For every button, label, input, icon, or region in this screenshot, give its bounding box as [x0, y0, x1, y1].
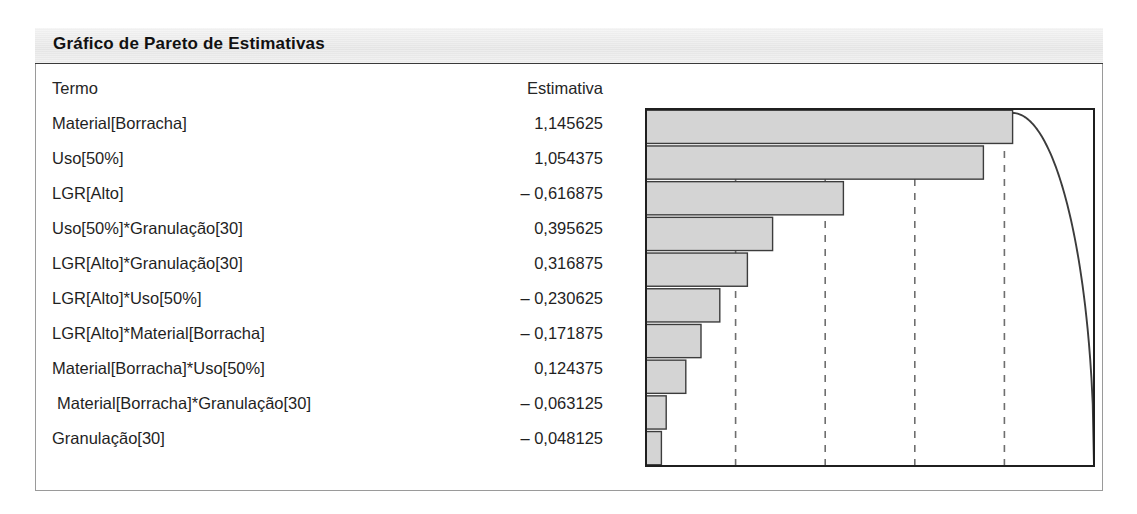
page-title: Gráfico de Pareto de Estimativas — [53, 34, 325, 54]
table-row[interactable]: Uso[50%]*Granulação[30] 0,395625 — [36, 212, 611, 247]
pareto-bar[interactable] — [646, 217, 773, 250]
estimate-value: – 0,063125 — [520, 394, 603, 413]
estimate-value: 1,145625 — [534, 114, 603, 133]
term-label: Granulação[30] — [52, 429, 165, 448]
estimate-value: – 0,616875 — [520, 184, 603, 203]
term-label: Material[Borracha]*Uso[50%] — [52, 359, 265, 378]
pareto-bar[interactable] — [646, 396, 666, 429]
estimate-value: 0,395625 — [534, 219, 603, 238]
table-row[interactable]: Granulação[30] – 0,048125 — [36, 422, 611, 457]
table-row[interactable]: Material[Borracha]*Uso[50%] 0,124375 — [36, 352, 611, 387]
estimate-value: – 0,171875 — [520, 324, 603, 343]
estimate-value: 0,316875 — [534, 254, 603, 273]
term-label: LGR[Alto]*Uso[50%] — [52, 289, 201, 308]
pareto-bar[interactable] — [646, 324, 701, 357]
table-row[interactable]: LGR[Alto]*Uso[50%] – 0,230625 — [36, 282, 611, 317]
term-label: Material[Borracha] — [52, 114, 187, 133]
term-label: Uso[50%] — [52, 149, 124, 168]
pareto-bar[interactable] — [646, 253, 747, 286]
table-row[interactable]: LGR[Alto]*Material[Borracha] – 0,171875 — [36, 317, 611, 352]
term-label: LGR[Alto]*Granulação[30] — [52, 254, 243, 273]
term-label: LGR[Alto] — [52, 184, 124, 203]
table-row[interactable]: Material[Borracha] 1,145625 — [36, 107, 611, 142]
pareto-bar[interactable] — [646, 182, 843, 215]
pareto-bar[interactable] — [646, 146, 983, 179]
estimates-table: Termo Estimativa Material[Borracha] 1,14… — [36, 64, 611, 491]
pareto-bar[interactable] — [646, 110, 1013, 143]
pareto-plot-svg — [611, 64, 1104, 491]
pareto-bar[interactable] — [646, 360, 686, 393]
column-header-estimate: Estimativa — [527, 79, 603, 98]
term-label: Uso[50%]*Granulação[30] — [52, 219, 243, 238]
table-row[interactable]: Material[Borracha]*Granulação[30] – 0,06… — [36, 387, 611, 422]
panel-body: Termo Estimativa Material[Borracha] 1,14… — [35, 64, 1103, 491]
estimate-value: – 0,048125 — [520, 429, 603, 448]
cumulative-curve — [1013, 113, 1094, 466]
table-row[interactable]: Uso[50%] 1,054375 — [36, 142, 611, 177]
panel-title-band: Gráfico de Pareto de Estimativas — [35, 28, 1103, 64]
table-header-row: Termo Estimativa — [36, 72, 611, 107]
estimate-value: – 0,230625 — [520, 289, 603, 308]
pareto-plot — [611, 64, 1104, 491]
column-header-term: Termo — [52, 79, 98, 98]
table-row[interactable]: LGR[Alto] – 0,616875 — [36, 177, 611, 212]
term-label: Material[Borracha]*Granulação[30] — [57, 394, 311, 413]
estimate-value: 1,054375 — [534, 149, 603, 168]
pareto-bar[interactable] — [646, 432, 661, 465]
table-row[interactable]: LGR[Alto]*Granulação[30] 0,316875 — [36, 247, 611, 282]
estimate-value: 0,124375 — [534, 359, 603, 378]
pareto-chart-panel: Gráfico de Pareto de Estimativas Termo E… — [0, 0, 1137, 514]
term-label: LGR[Alto]*Material[Borracha] — [52, 324, 265, 343]
pareto-bar[interactable] — [646, 289, 720, 322]
